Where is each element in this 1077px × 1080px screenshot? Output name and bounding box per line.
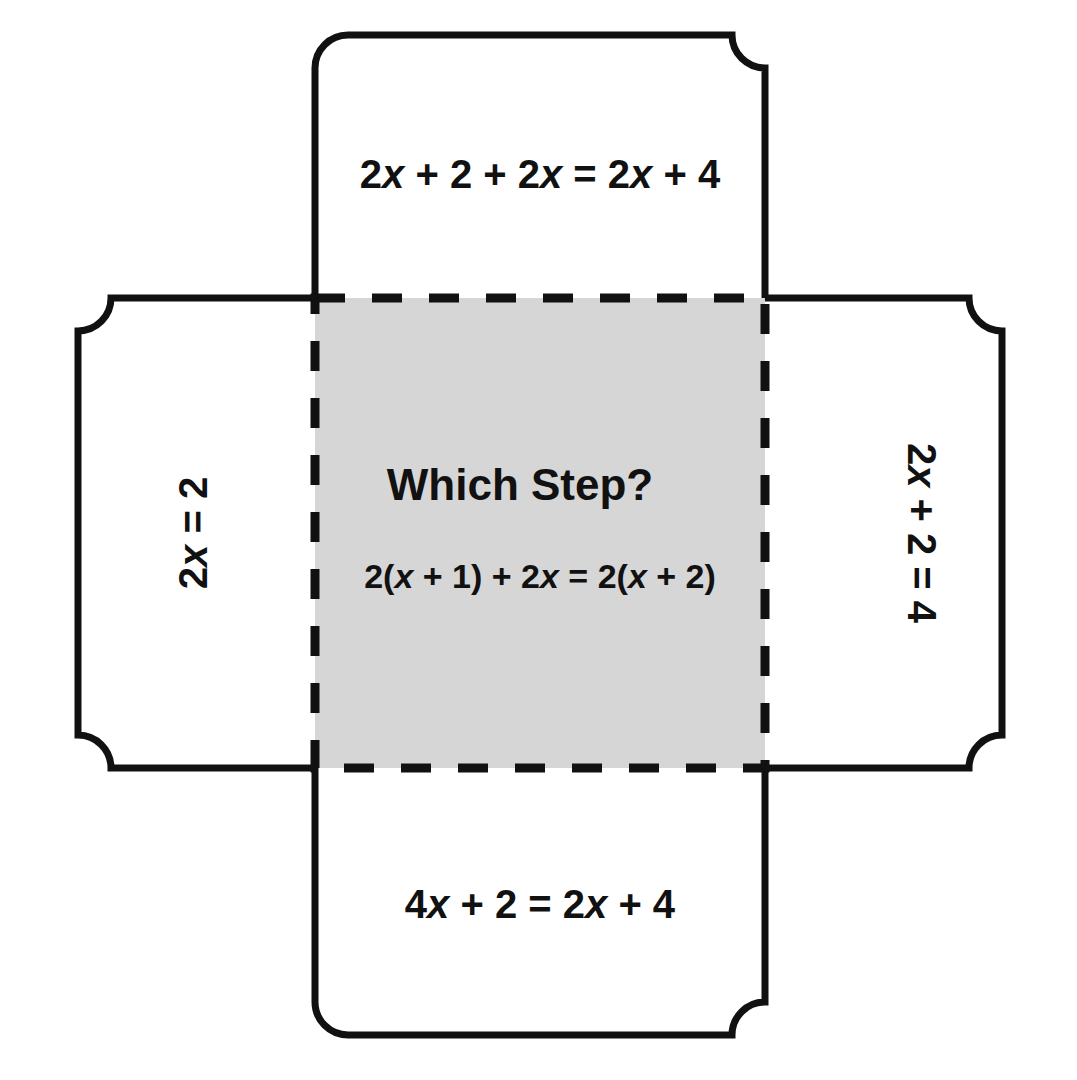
bottom-flap-var1: x (425, 882, 451, 926)
center-eq-mid1: + 1) + 2 (413, 557, 540, 595)
center-eq-suffix: + 2) (647, 557, 716, 595)
bottom-flap-seg2: + 2 = 2 (449, 882, 585, 926)
top-flap-var1: x (380, 152, 406, 196)
left-flap-equation: 2x = 2 (171, 477, 215, 589)
top-flap-seg1: 2 (360, 152, 382, 196)
top-flap-var2: x (538, 152, 564, 196)
top-flap-var3: x (628, 152, 654, 196)
center-eq-var2: x (538, 557, 561, 595)
top-flap-seg3: = 2 (562, 152, 630, 196)
center-eq-var3: x (626, 557, 649, 595)
left-flap-var1: x (171, 543, 215, 569)
center-eq-var1: x (392, 557, 415, 595)
center-panel-equation: 2(x + 1) + 2x = 2(x + 2) (364, 557, 716, 595)
center-eq-mid2: = 2( (559, 557, 629, 595)
center-panel-title: Which Step? (387, 460, 653, 509)
right-flap-seg2: + 2 = 4 (900, 487, 944, 623)
left-flap-seg1: 2 (171, 567, 215, 589)
bottom-flap-seg1: 4 (405, 882, 428, 926)
right-flap-seg1: 2 (900, 443, 944, 465)
right-flap-equation: 2x + 2 = 4 (900, 443, 944, 624)
right-flap-var1: x (900, 463, 944, 489)
bottom-flap-seg3: + 4 (607, 882, 676, 926)
center-panel-fill (315, 298, 765, 768)
bottom-flap-equation: 4x + 2 = 2x + 4 (405, 882, 676, 926)
right-flap-outline[interactable] (765, 298, 1002, 768)
top-flap-seg2: + 2 + 2 (404, 152, 540, 196)
top-flap-equation: 2x + 2 + 2x = 2x + 4 (360, 152, 721, 196)
center-eq-prefix: 2( (364, 557, 395, 595)
top-flap-seg4: + 4 (652, 152, 721, 196)
left-flap-seg2: = 2 (171, 477, 215, 545)
foldable-diagram: 2x + 2 + 2x = 2x + 4 4x + 2 = 2x + 4 2x … (0, 0, 1077, 1080)
worksheet-canvas: 2x + 2 + 2x = 2x + 4 4x + 2 = 2x + 4 2x … (0, 0, 1077, 1080)
bottom-flap-var2: x (583, 882, 609, 926)
